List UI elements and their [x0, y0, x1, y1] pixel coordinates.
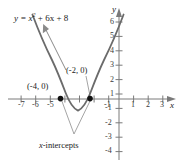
- y-tick-label--2: -2: [105, 119, 112, 127]
- y-tick-label--3: -3: [105, 133, 112, 141]
- x-tick-label-3: 3: [160, 101, 164, 109]
- x-tick-label-2: 2: [146, 101, 150, 109]
- equation-label-rest: + 6x + 8: [36, 13, 69, 23]
- equation-label: y = x2 + 6x + 8: [14, 14, 68, 23]
- x-intercept-point-right: [87, 96, 93, 102]
- equation-label-main: y = x: [14, 13, 33, 23]
- y-axis-label: y: [112, 5, 116, 14]
- leader-to-right-intercept: [74, 100, 91, 134]
- point-label-minus4-0: (-4, 0): [27, 82, 48, 91]
- x-tick-label-1: 1: [131, 101, 135, 109]
- x-tick-label--6: -6: [32, 101, 39, 109]
- y-tick-label--1: -1: [105, 104, 112, 112]
- x-axis-label: x: [170, 101, 174, 110]
- y-axis-arrowhead: [116, 8, 122, 17]
- x-intercepts-leader-lines: [62, 100, 91, 134]
- x-tick-label--5: -5: [47, 101, 54, 109]
- y-tick-label-6: 6: [110, 18, 114, 26]
- y-tick-label--4: -4: [105, 147, 112, 155]
- equation-leader-arrowhead: [43, 24, 49, 33]
- x-intercepts-caption: x-intercepts: [39, 141, 79, 150]
- x-intercept-point-left: [58, 96, 64, 102]
- parabola-figure: y = x2 + 6x + 8 y x -7 -6 -5 -1 1 2 3 6 …: [0, 0, 181, 165]
- y-tick-label-5: 5: [110, 32, 114, 40]
- point-label-minus2-0: (-2, 0): [66, 66, 87, 75]
- x-tick-label--7: -7: [18, 101, 25, 109]
- equation-leader-arrow: [45, 28, 66, 70]
- y-tick-label-4: 4: [110, 47, 114, 55]
- y-tick-label-2: 2: [110, 76, 114, 84]
- caption-rest: -intercepts: [43, 140, 79, 150]
- y-tick-label-3: 3: [110, 61, 114, 69]
- y-tick-label-1: 1: [110, 90, 114, 98]
